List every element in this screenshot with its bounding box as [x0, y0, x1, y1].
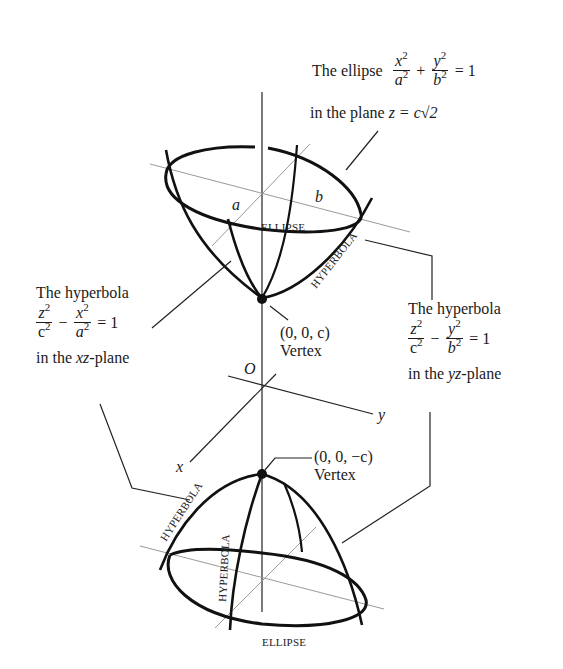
left-hyperbola-label: The hyperbola z2 c2 − x2 a2 = 1 in the x…: [36, 284, 129, 367]
fraction-z2-c2: z2 c2: [36, 304, 53, 341]
x-axis: [190, 374, 276, 462]
vertex-text: Vertex: [314, 466, 373, 484]
right-hyperbola-label: The hyperbola z2 c2 − y2 b2 = 1 in the y…: [408, 300, 501, 383]
label-text: The ellipse: [312, 62, 383, 80]
lower-hyperbola-inner-curve-label: HYPERBOLA: [216, 534, 232, 602]
y-axis-label: y: [378, 406, 385, 424]
fraction-y2-b2: y2 b2: [446, 320, 464, 357]
top-ellipse-plane-label: in the plane z = c√2: [310, 104, 438, 122]
lower-vertex-point: [257, 469, 267, 479]
fraction-x2-a2: x2 a2: [74, 304, 92, 341]
upper-ellipse-curve-label: ELLIPSE: [261, 218, 305, 236]
leader-right-hyperbola: [365, 240, 432, 300]
semi-axis-b-label: b: [315, 188, 323, 206]
fraction-z2-c2: z2 c2: [408, 320, 425, 357]
upper-vertex-point: [257, 294, 267, 304]
leader-top-ellipse: [346, 131, 378, 170]
upper-vertex-label: (0, 0, c) Vertex: [280, 324, 330, 360]
vertex-text: Vertex: [280, 342, 330, 360]
label-title: The hyperbola: [36, 284, 129, 302]
y-axis: [228, 376, 373, 414]
top-ellipse-label: The ellipse x2 a2 + y2 b2 = 1: [312, 52, 479, 89]
leader-left-lower: [100, 404, 190, 500]
origin-label: O: [244, 360, 256, 378]
x-axis-label: x: [176, 458, 183, 476]
fraction-x2-a2: x2 a2: [393, 52, 411, 89]
leader-left-hyperbola: [152, 261, 231, 328]
upper-hyperbola-curve-label: HYPERBOLA: [308, 229, 359, 290]
lower-hyperbola-back: [284, 483, 302, 552]
fraction-y2-b2: y2 b2: [431, 52, 449, 89]
lower-ellipse-curve-label: ELLIPSE: [262, 633, 306, 651]
semi-axis-a-label: a: [232, 196, 240, 214]
lower-hyperbola-right: [262, 474, 362, 625]
vertex-coords: (0, 0, −c): [314, 448, 373, 466]
lower-hyperbola-left-curve-label: HYPERBOLA: [158, 480, 205, 543]
vertex-coords: (0, 0, c): [280, 324, 330, 342]
lower-vertex-label: (0, 0, −c) Vertex: [314, 448, 373, 484]
label-title: The hyperbola: [408, 300, 501, 318]
leader-lower-vertex: [265, 458, 312, 470]
leader-upper-vertex: [270, 306, 288, 320]
